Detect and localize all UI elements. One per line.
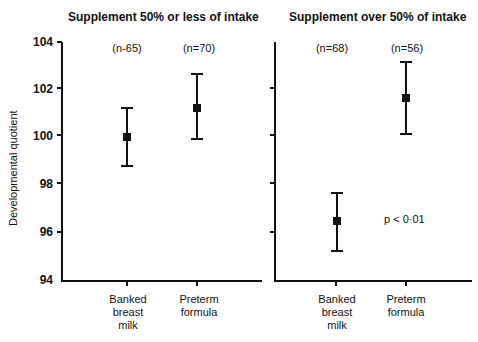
category-left-banked: Banked breast milk bbox=[93, 293, 163, 332]
point-left-banked bbox=[123, 133, 131, 141]
category-line: milk bbox=[302, 319, 372, 332]
point-left-preterm bbox=[193, 104, 201, 112]
category-right-banked: Banked breast milk bbox=[302, 293, 372, 332]
category-line: formula bbox=[164, 306, 234, 319]
chart-plot-area bbox=[0, 0, 478, 342]
point-right-preterm bbox=[402, 94, 410, 102]
category-line: breast bbox=[93, 306, 163, 319]
category-left-preterm: Preterm formula bbox=[164, 293, 234, 319]
p-value-annotation: p < 0·01 bbox=[384, 213, 425, 225]
category-line: Banked bbox=[302, 293, 372, 306]
category-line: formula bbox=[371, 306, 441, 319]
point-right-banked bbox=[333, 217, 341, 225]
category-line: Preterm bbox=[164, 293, 234, 306]
category-line: breast bbox=[302, 306, 372, 319]
right-axes bbox=[275, 42, 472, 281]
left-axes bbox=[62, 42, 262, 281]
category-line: milk bbox=[93, 319, 163, 332]
category-right-preterm: Preterm formula bbox=[371, 293, 441, 319]
category-line: Preterm bbox=[371, 293, 441, 306]
category-line: Banked bbox=[93, 293, 163, 306]
